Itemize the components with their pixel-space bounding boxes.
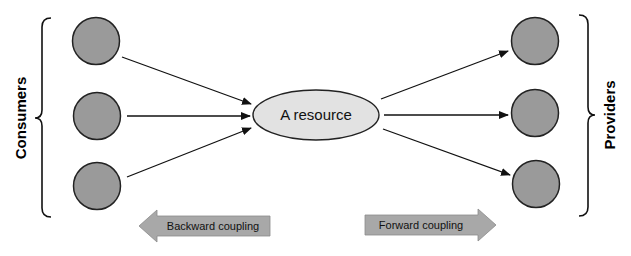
edge-resource-to-provider-3 [383, 129, 510, 175]
provider-node-3 [513, 161, 560, 208]
consumer-node-1 [73, 18, 120, 65]
provider-node-1 [512, 18, 559, 65]
consumers-group-label: Consumers [12, 77, 29, 160]
consumer-node-3 [74, 163, 121, 210]
resource-label: A resource [280, 106, 352, 123]
coupling-diagram: Consumers A resource Providers Backward … [0, 0, 631, 256]
providers-brace [579, 15, 595, 216]
consumers-label: Consumers [12, 77, 29, 160]
edge-consumer-3-to-resource [127, 128, 251, 177]
edge-consumer-1-to-resource [122, 57, 251, 104]
consumer-node-2 [74, 93, 121, 140]
provider-node-2 [512, 90, 559, 137]
forward-coupling-label: Forward coupling [379, 219, 463, 231]
backward-coupling-arrow: Backward coupling [139, 210, 270, 242]
providers-label: Providers [601, 80, 618, 149]
edge-resource-to-provider-1 [381, 51, 508, 99]
forward-coupling-arrow: Forward coupling [365, 209, 496, 241]
consumers-brace [35, 18, 51, 217]
backward-coupling-label: Backward coupling [167, 220, 259, 232]
